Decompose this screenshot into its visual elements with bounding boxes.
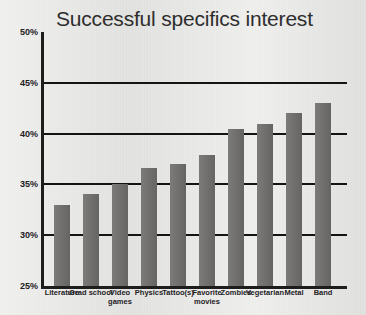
bar <box>54 205 70 286</box>
x-axis-tick-labels: LiteratureGrad schoolVideo gamesPhysicsT… <box>41 288 366 315</box>
bar <box>199 155 215 286</box>
bar <box>83 194 99 286</box>
bar <box>141 168 157 286</box>
chart-page: Successful specifics interest 50%45%40%3… <box>0 0 366 315</box>
y-tick-label: 40% <box>4 130 38 139</box>
gridline <box>44 82 347 84</box>
y-tick-label: 50% <box>4 28 38 37</box>
bar <box>170 164 186 286</box>
plot-area <box>41 32 347 289</box>
bar <box>112 184 128 286</box>
y-axis-line <box>41 32 44 289</box>
bar <box>228 129 244 286</box>
bar <box>257 124 273 286</box>
y-tick-label: 45% <box>4 79 38 88</box>
y-tick-label: 25% <box>4 282 38 291</box>
x-tick-label: Band <box>300 288 346 297</box>
y-axis-tick-labels: 50%45%40%35%30%25% <box>0 32 38 289</box>
bar <box>315 103 331 286</box>
bar <box>286 113 302 286</box>
y-tick-label: 30% <box>4 231 38 240</box>
page-title: Successful specifics interest <box>56 6 313 32</box>
y-tick-label: 35% <box>4 180 38 189</box>
